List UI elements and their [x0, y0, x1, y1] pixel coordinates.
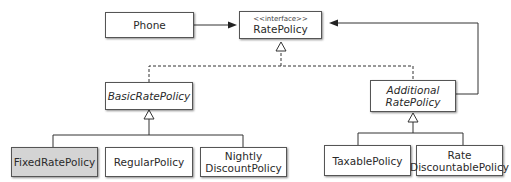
class-basic-rate-policy: BasicRatePolicy — [105, 82, 193, 110]
class-taxable-policy-label: TaxablePolicy — [332, 155, 402, 167]
class-fixed-rate-policy-label: FixedRatePolicy — [14, 156, 96, 168]
class-nightly-discount-policy: Nightly DiscountPolicy — [200, 147, 287, 177]
class-additional-rate-policy: Additional RatePolicy — [370, 80, 456, 112]
class-regular-policy: RegularPolicy — [105, 147, 193, 177]
class-phone-label: Phone — [133, 19, 166, 31]
class-fixed-rate-policy: FixedRatePolicy — [11, 147, 98, 177]
class-basic-rate-policy-label: BasicRatePolicy — [108, 90, 191, 102]
class-phone: Phone — [105, 12, 194, 38]
interface-rate-policy: <<interface>> RatePolicy — [239, 11, 322, 39]
class-additional-rate-policy-line2: RatePolicy — [386, 96, 441, 108]
class-additional-rate-policy-line1: Additional — [387, 84, 440, 96]
class-rate-discountable-policy-line2: DiscountablePolicy — [410, 161, 509, 173]
class-nightly-discount-policy-line2: DiscountPolicy — [205, 162, 281, 174]
interface-stereotype: <<interface>> — [253, 15, 308, 23]
class-rate-discountable-policy: Rate DiscountablePolicy — [416, 145, 503, 176]
class-taxable-policy: TaxablePolicy — [324, 145, 411, 176]
class-rate-discountable-policy-line1: Rate — [447, 149, 471, 161]
interface-rate-policy-label: RatePolicy — [253, 23, 307, 35]
class-regular-policy-label: RegularPolicy — [114, 156, 184, 168]
class-nightly-discount-policy-line1: Nightly — [225, 150, 262, 162]
